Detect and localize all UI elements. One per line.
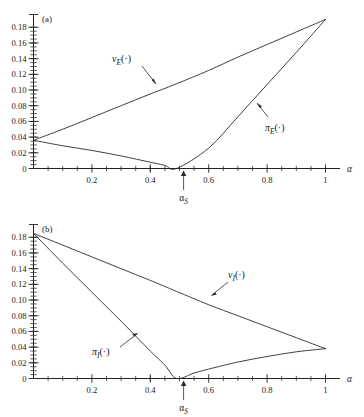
y-tick-label: 0.16: [11, 38, 27, 48]
x-axis-name-a: α: [347, 164, 353, 174]
x-tick-labels-b: 0.20.40.60.81: [87, 385, 328, 395]
annotation-v-i: vI(·): [211, 269, 245, 296]
chart-panel-a: 00.020.040.060.080.100.120.140.160.18 0.…: [0, 0, 364, 207]
panel-b-svg: 00.020.040.060.080.100.120.140.160.18 0.…: [0, 207, 364, 417]
y-tick-label: 0.10: [11, 85, 26, 95]
panel-tag-b: (b): [42, 224, 53, 234]
curve-label-pi-i: πI(·): [92, 346, 109, 360]
x-tick-label: 0.6: [203, 385, 214, 395]
leader-arrowhead-v-i: [211, 292, 217, 296]
annotation-pi-e: πE(·): [257, 103, 285, 136]
annotation-v-e: vE(·): [112, 53, 156, 84]
y-tick-label: 0.06: [11, 116, 27, 126]
curve-label-v-e: vE(·): [112, 53, 131, 67]
y-tick-label: 0.10: [11, 295, 26, 305]
y-tick-label: 0: [22, 374, 26, 384]
curve-pi-e: [34, 19, 326, 169]
y-tick-label: 0.16: [11, 248, 27, 258]
y-tick-label: 0: [22, 164, 26, 174]
y-tick-label: 0.06: [11, 326, 27, 336]
panel-a-svg: 00.020.040.060.080.100.120.140.160.18 0.…: [0, 0, 364, 207]
x-tick-label: 0.8: [262, 385, 273, 395]
x-tick-label: 0.2: [87, 175, 98, 185]
annotation-pi-i: πI(·): [92, 333, 138, 360]
annotation-alpha-s-a: αS: [179, 171, 188, 206]
curve-label-pi-e: πE(·): [265, 122, 285, 136]
panel-b-axes: [29, 224, 340, 379]
panel-tag-a: (a): [42, 14, 52, 24]
x-tick-label: 0.4: [145, 175, 156, 185]
y-tick-label: 0.18: [11, 232, 26, 242]
y-tick-label: 0.12: [11, 69, 26, 79]
y-tick-label: 0.14: [11, 54, 27, 64]
y-tick-label: 0.08: [11, 101, 26, 111]
curve-label-v-i: vI(·): [228, 269, 245, 283]
x-tick-label: 0.6: [203, 175, 214, 185]
x-tick-label: 0.2: [87, 385, 98, 395]
figure-container: 00.020.040.060.080.100.120.140.160.18 0.…: [0, 0, 364, 417]
y-tick-label: 0.04: [11, 342, 27, 352]
alpha-s-label-b: αS: [179, 403, 188, 416]
y-tick-label: 0.12: [11, 279, 26, 289]
curve-pi-i: [34, 233, 326, 378]
y-tick-label: 0.02: [11, 358, 26, 368]
y-tick-label: 0.02: [11, 148, 26, 158]
panel-a-axes: [29, 14, 340, 169]
y-tick-labels-b: 00.020.040.060.080.100.120.140.160.18: [11, 232, 27, 383]
alpha-s-arrowhead-b: [181, 381, 186, 387]
chart-panel-b: 00.020.040.060.080.100.120.140.160.18 0.…: [0, 207, 364, 417]
x-tick-label: 1: [323, 175, 327, 185]
x-tick-label: 0.4: [145, 385, 156, 395]
curve-v-i: [34, 233, 326, 348]
y-tick-label: 0.04: [11, 132, 27, 142]
x-tick-labels-a: 0.20.40.60.81: [87, 175, 328, 185]
annotation-alpha-s-b: αS: [179, 381, 188, 416]
alpha-s-label-a: αS: [179, 193, 188, 206]
x-axis-name-b: α: [347, 374, 353, 384]
y-tick-label: 0.08: [11, 311, 26, 321]
y-tick-label: 0.18: [11, 22, 26, 32]
alpha-s-arrowhead-a: [181, 171, 186, 177]
x-tick-label: 0.8: [262, 175, 273, 185]
leader-arrowhead-pi-e: [257, 103, 262, 108]
y-tick-label: 0.14: [11, 264, 27, 274]
y-tick-labels-a: 00.020.040.060.080.100.120.140.160.18: [11, 22, 27, 173]
x-tick-label: 1: [323, 385, 327, 395]
